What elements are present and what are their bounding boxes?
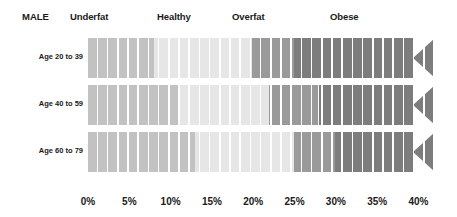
band-overfat	[252, 38, 293, 78]
page-title: MALE	[22, 11, 49, 22]
band-overfat	[269, 85, 319, 125]
band-underfat	[88, 85, 179, 125]
axis-tick-0: 0%	[81, 196, 95, 207]
band-healthy	[195, 132, 293, 172]
axis-tick-25: 25%	[285, 196, 305, 207]
axis-tick-5: 5%	[122, 196, 136, 207]
body-fat-chart: MALE Underfat Healthy Overfat Obese Age …	[0, 0, 457, 217]
category-label-obese: Obese	[330, 11, 359, 22]
category-label-underfat: Underfat	[70, 11, 108, 22]
bar-row-age-60-79	[88, 132, 435, 172]
axis-tick-20: 20%	[243, 196, 263, 207]
bar-row-age-20-39	[88, 38, 435, 78]
axis-tick-40: 40%	[408, 196, 428, 207]
band-underfat	[88, 132, 195, 172]
band-overfat	[294, 132, 335, 172]
bar-bands	[88, 132, 435, 172]
band-obese	[335, 132, 435, 172]
band-obese	[319, 85, 435, 125]
bar-bands	[88, 85, 435, 125]
band-healthy	[154, 38, 252, 78]
bar-row-age-40-59	[88, 85, 435, 125]
row-label-age-60-79: Age 60 to 79	[0, 146, 83, 155]
axis-tick-30: 30%	[326, 196, 346, 207]
band-obese	[294, 38, 435, 78]
row-label-age-20-39: Age 20 to 39	[0, 52, 83, 61]
row-label-age-40-59: Age 40 to 59	[0, 99, 83, 108]
axis-tick-10: 10%	[161, 196, 181, 207]
band-underfat	[88, 38, 154, 78]
category-label-healthy: Healthy	[157, 11, 191, 22]
axis-tick-15: 15%	[202, 196, 222, 207]
bar-bands	[88, 38, 435, 78]
axis-tick-35: 35%	[367, 196, 387, 207]
band-healthy	[179, 85, 269, 125]
category-label-overfat: Overfat	[232, 11, 265, 22]
